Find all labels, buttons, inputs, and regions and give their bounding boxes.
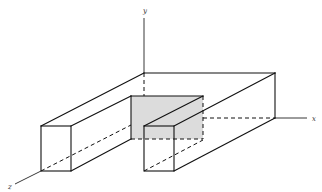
u-shape-diagram: y x z	[0, 0, 322, 192]
z-axis	[15, 171, 41, 184]
z-axis-label: z	[7, 183, 12, 191]
x-axis-label: x	[312, 115, 316, 123]
shaded-face	[131, 96, 203, 139]
y-axis-label: y	[142, 7, 148, 15]
